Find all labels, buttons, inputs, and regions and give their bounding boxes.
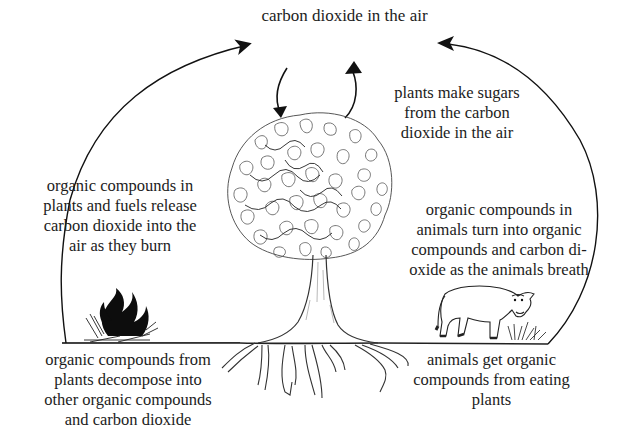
consumption-line-3: plants (404, 390, 579, 410)
combustion-line-4: air as they burn (30, 236, 210, 256)
fire-icon (84, 288, 158, 342)
ground-line (62, 343, 548, 345)
consumption-line-1: animals get organic (404, 350, 579, 370)
photosynthesis-line-1: plants make sugars (378, 83, 536, 103)
respiration-line-1: organic compounds in (400, 200, 598, 220)
air-label-text: carbon dioxide in the air (252, 6, 437, 26)
tree-to-air-arrow (345, 61, 362, 118)
roots-icon (222, 343, 408, 398)
photosynthesis-line-3: dioxide in the air (378, 123, 536, 143)
cow-icon (436, 286, 534, 338)
photosynthesis-label: plants make sugars from the carbon dioxi… (378, 83, 536, 143)
decomposition-line-4: and carbon dioxide (28, 410, 228, 430)
combustion-line-2: plants and fuels release (30, 196, 210, 216)
respiration-line-2: animals turn into organic (400, 220, 598, 240)
grass-icon (508, 322, 546, 340)
air-to-tree-arrow (273, 68, 287, 118)
tree-icon (228, 113, 392, 260)
combustion-label: organic compounds in plants and fuels re… (30, 176, 210, 256)
carbon-dioxide-air-label: carbon dioxide in the air (252, 6, 437, 26)
respiration-label: organic compounds in animals turn into o… (400, 200, 598, 280)
decomposition-line-1: organic compounds from (28, 350, 228, 370)
consumption-line-2: compounds from eating (404, 370, 579, 390)
decomposition-label: organic compounds from plants decompose … (28, 350, 228, 430)
respiration-line-3: compounds and carbon di- (400, 240, 598, 260)
decomposition-line-3: other organic compounds (28, 390, 228, 410)
carbon-cycle-diagram: carbon dioxide in the air plants make su… (0, 0, 642, 440)
consumption-label: animals get organic compounds from eatin… (404, 350, 579, 410)
combustion-line-3: carbon dioxide into the (30, 216, 210, 236)
tree-trunk (258, 255, 378, 343)
decomposition-line-2: plants decompose into (28, 370, 228, 390)
combustion-line-1: organic compounds in (30, 176, 210, 196)
photosynthesis-line-2: from the carbon (378, 103, 536, 123)
respiration-line-4: oxide as the animals breath (400, 260, 598, 280)
